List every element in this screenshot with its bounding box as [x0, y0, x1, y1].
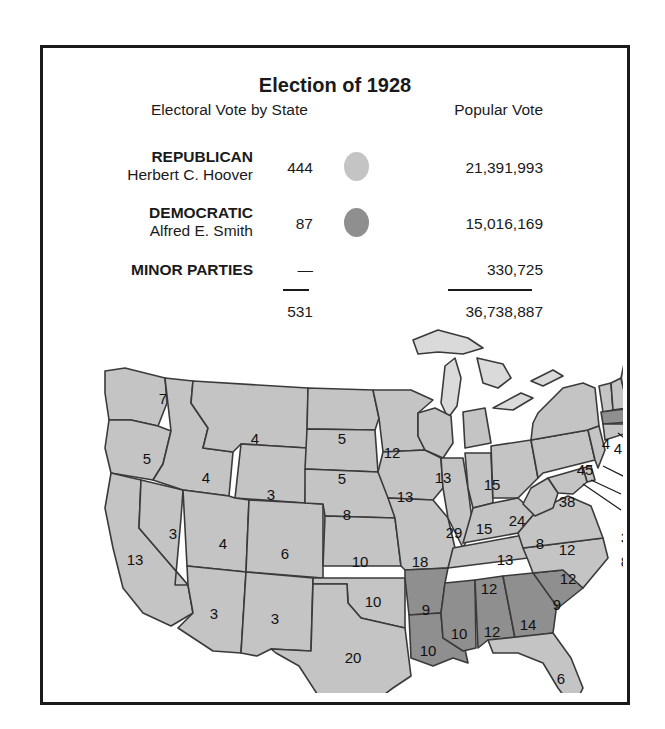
label-CA: 13: [127, 551, 144, 568]
label-MT: 4: [251, 430, 259, 447]
label-PA: 38: [559, 493, 576, 510]
republican-popular: 21,391,993: [465, 159, 543, 177]
label-OR: 5: [143, 450, 151, 467]
label-AL: 12: [484, 623, 501, 640]
label-TX: 20: [345, 649, 362, 666]
label-TN: 12: [481, 580, 498, 597]
democratic-electoral: 87: [263, 215, 313, 233]
label-AZ: 3: [210, 605, 218, 622]
republican-legend-swatch: [344, 152, 369, 181]
label-NM: 3: [271, 610, 279, 627]
label-NH: 4: [614, 440, 622, 457]
state-MI: [463, 408, 491, 448]
label-IN: 15: [476, 520, 493, 537]
label-MI: 15: [484, 476, 501, 493]
electoral-vote-header: Electoral Vote by State: [151, 101, 308, 119]
lake-superior: [413, 330, 483, 354]
state-CO: [246, 500, 323, 578]
label-SC: 9: [553, 596, 561, 613]
label-LA: 10: [420, 642, 437, 659]
label-OH: 24: [509, 512, 526, 529]
label-GA: 14: [520, 616, 537, 633]
popular-total-rule: [448, 289, 532, 291]
party-name: MINOR PARTIES: [131, 261, 253, 279]
label-MN: 12: [384, 444, 401, 461]
chart-frame: Election of 1928 Electoral Vote by State…: [40, 45, 630, 705]
state-UT: [183, 490, 249, 572]
candidate-name: Herbert C. Hoover: [127, 166, 253, 184]
state-FL: [488, 633, 583, 693]
party-name: REPUBLICAN: [127, 148, 253, 166]
label-NE: 8: [343, 506, 351, 523]
label-MD: 8: [621, 553, 623, 570]
democratic-popular: 15,016,169: [465, 215, 543, 233]
label-NC: 12: [560, 570, 577, 587]
state-WA: [105, 368, 167, 426]
label-FL: 6: [557, 670, 565, 687]
label-NV: 3: [169, 525, 177, 542]
label-DE: 3: [621, 529, 623, 546]
label-NY: 45: [577, 461, 594, 478]
label-WI: 13: [435, 469, 452, 486]
party-name: DEMOCRATIC: [149, 204, 253, 222]
state-NH: [611, 378, 623, 410]
lake-michigan: [441, 358, 461, 418]
label-WA: 7: [159, 390, 167, 407]
label-UT: 4: [219, 535, 227, 552]
label-VT: 4: [602, 435, 610, 452]
state-MT: [191, 381, 308, 452]
label-KY: 13: [497, 551, 514, 568]
democratic-legend-swatch: [344, 208, 369, 237]
label-SD: 5: [338, 470, 346, 487]
label-KS: 10: [352, 553, 369, 570]
label-VA: 12: [559, 541, 576, 558]
label-MS: 10: [451, 625, 468, 642]
lake-erie: [493, 393, 533, 410]
minor-electoral: —: [263, 261, 313, 279]
label-CO: 6: [281, 545, 289, 562]
label-IL: 29: [446, 524, 463, 541]
republican-electoral: 444: [263, 159, 313, 177]
lake-huron: [477, 358, 511, 388]
democratic-label: DEMOCRATIC Alfred E. Smith: [149, 204, 253, 240]
label-MO: 18: [412, 553, 429, 570]
minor-parties-label: MINOR PARTIES: [131, 261, 253, 279]
electoral-total-rule: [283, 289, 309, 291]
us-electoral-map: 7 5 13 3 4 4 3 4 6 3 3 5 5 8 10 10 20 12…: [63, 323, 623, 693]
state-ND: [307, 388, 379, 430]
label-AR: 9: [422, 601, 430, 618]
popular-total: 36,738,887: [465, 303, 543, 321]
label-WV: 8: [536, 535, 544, 552]
popular-vote-header: Popular Vote: [454, 101, 543, 119]
lake-ontario: [531, 370, 563, 386]
chart-title: Election of 1928: [43, 74, 627, 97]
electoral-total: 531: [263, 303, 313, 321]
label-IA: 13: [397, 488, 414, 505]
label-ID: 4: [202, 469, 210, 486]
republican-label: REPUBLICAN Herbert C. Hoover: [127, 148, 253, 184]
candidate-name: Alfred E. Smith: [149, 222, 253, 240]
minor-popular: 330,725: [487, 261, 543, 279]
label-WY: 3: [267, 486, 275, 503]
label-ND: 5: [338, 430, 346, 447]
label-OK: 10: [365, 593, 382, 610]
